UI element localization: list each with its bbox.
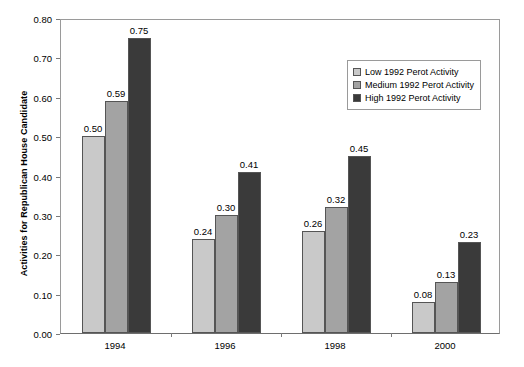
legend-item-label: Medium 1992 Perot Activity	[365, 80, 474, 90]
bar-value-label: 0.23	[449, 229, 489, 240]
x-axis-tick-label: 1996	[185, 340, 265, 351]
bar-value-label: 0.45	[339, 143, 379, 154]
legend-swatch-icon	[353, 68, 361, 76]
y-axis-tick-labels: 0.000.100.200.300.400.500.600.700.80	[18, 0, 52, 367]
x-axis-tick-label: 1994	[75, 340, 155, 351]
bar[interactable]	[435, 282, 458, 333]
y-axis-tick-label: 0.00	[18, 329, 52, 340]
y-axis-tick-label: 0.40	[18, 171, 52, 182]
x-axis-tick-mark	[171, 333, 172, 337]
y-axis-tick-label: 0.80	[18, 14, 52, 25]
bar[interactable]	[238, 172, 261, 333]
x-axis-tick-mark	[391, 333, 392, 337]
bar-group: 0.500.590.75	[61, 20, 171, 333]
bar[interactable]	[82, 136, 105, 333]
bar[interactable]	[302, 231, 325, 333]
y-axis-tick-label: 0.70	[18, 53, 52, 64]
bar[interactable]	[105, 101, 128, 333]
x-axis-tick-label: 2000	[405, 340, 485, 351]
bar[interactable]	[325, 207, 348, 333]
bar[interactable]	[215, 215, 238, 333]
x-axis-tick-labels: 1994199619982000	[60, 340, 500, 356]
legend-item[interactable]: Medium 1992 Perot Activity	[353, 79, 474, 91]
legend-swatch-icon	[353, 94, 361, 102]
legend-item-label: Low 1992 Perot Activity	[365, 67, 459, 77]
bar[interactable]	[458, 242, 481, 333]
legend-item-label: High 1992 Perot Activity	[365, 93, 461, 103]
bar[interactable]	[412, 302, 435, 334]
y-axis-tick-label: 0.10	[18, 289, 52, 300]
x-axis-tick-mark	[281, 333, 282, 337]
x-axis-tick-label: 1998	[295, 340, 375, 351]
legend-item[interactable]: High 1992 Perot Activity	[353, 92, 474, 104]
y-axis-tick-mark	[56, 334, 60, 335]
bar-chart: Activities for Republican House Candidat…	[0, 0, 524, 367]
bar[interactable]	[192, 239, 215, 334]
legend-swatch-icon	[353, 81, 361, 89]
y-axis-tick-label: 0.20	[18, 250, 52, 261]
bar[interactable]	[348, 156, 371, 333]
y-axis-tick-label: 0.50	[18, 132, 52, 143]
legend-item[interactable]: Low 1992 Perot Activity	[353, 66, 474, 78]
bar[interactable]	[128, 38, 151, 333]
bar-value-label: 0.75	[119, 25, 159, 36]
bar-group: 0.240.300.41	[171, 20, 281, 333]
y-axis-tick-label: 0.30	[18, 210, 52, 221]
bar-value-label: 0.41	[229, 159, 269, 170]
chart-legend: Low 1992 Perot ActivityMedium 1992 Perot…	[347, 60, 481, 110]
y-axis-tick-label: 0.60	[18, 92, 52, 103]
